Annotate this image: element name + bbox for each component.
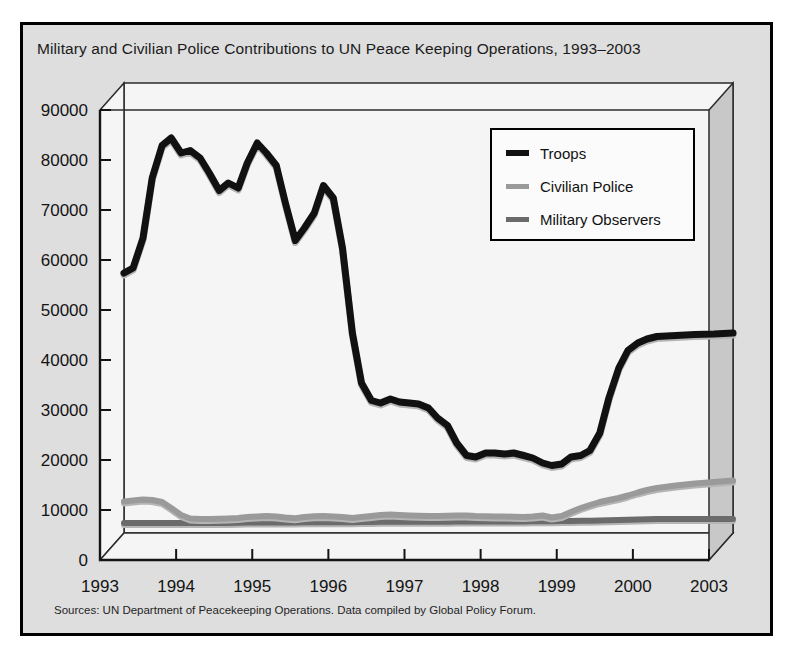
- x-axis-tick-label: 2003: [690, 577, 728, 596]
- legend-swatch-civilian-police: [506, 184, 529, 189]
- x-axis-tick-label: 1996: [309, 577, 347, 596]
- x-axis-tick-label: 2000: [614, 577, 652, 596]
- legend-label-military-observers: Military Observers: [540, 211, 661, 228]
- y-axis-tick-label: 0: [79, 551, 88, 570]
- source-note: Sources: UN Department of Peacekeeping O…: [54, 604, 536, 616]
- x-axis-tick-label: 1997: [386, 577, 424, 596]
- x-axis-tick-label: 1995: [233, 577, 271, 596]
- y-axis-tick-label: 30000: [41, 401, 88, 420]
- x-axis-tick-label: 1998: [462, 577, 500, 596]
- legend-item-troops: Troops: [506, 142, 586, 164]
- figure-container: Military and Civilian Police Contributio…: [0, 0, 797, 658]
- x-axis-tick-label: 1999: [538, 577, 576, 596]
- legend-swatch-troops: [506, 150, 529, 156]
- y-axis-tick-label: 10000: [41, 501, 88, 520]
- x-axis-tick-label: 1993: [81, 577, 119, 596]
- chart-plot: 0100002000030000400005000060000700008000…: [0, 0, 797, 658]
- chart-legend: Troops Civilian Police Military Observer…: [490, 128, 695, 241]
- legend-label-civilian-police: Civilian Police: [540, 178, 633, 195]
- y-axis-tick-label: 80000: [41, 151, 88, 170]
- y-axis-tick-label: 60000: [41, 251, 88, 270]
- legend-item-military-observers: Military Observers: [506, 208, 661, 230]
- y-axis-tick-label: 40000: [41, 351, 88, 370]
- y-axis-tick-label: 50000: [41, 301, 88, 320]
- x-axis-tick-label: 1994: [157, 577, 195, 596]
- y-axis-tick-label: 70000: [41, 201, 88, 220]
- y-axis-tick-label: 90000: [41, 101, 88, 120]
- legend-swatch-military-observers: [506, 217, 529, 222]
- legend-item-civilian-police: Civilian Police: [506, 175, 633, 197]
- legend-label-troops: Troops: [540, 145, 586, 162]
- y-axis-tick-label: 20000: [41, 451, 88, 470]
